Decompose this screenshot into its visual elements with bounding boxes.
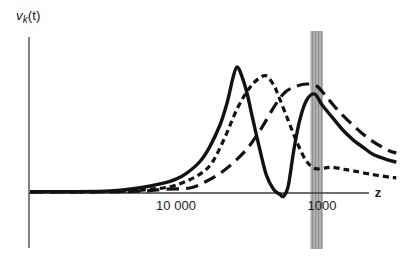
y-axis-label-of-t: (t) bbox=[28, 8, 41, 23]
y-axis-label: vk(t) bbox=[16, 8, 41, 25]
tick-label-10000: 10 000 bbox=[156, 198, 196, 213]
short-dashed-curve bbox=[30, 75, 396, 192]
x-axis-label: z bbox=[375, 185, 382, 200]
recombination-band bbox=[310, 31, 323, 249]
chart-svg: vk(t) z 10 000 1000 bbox=[0, 0, 402, 263]
tick-label-1000: 1000 bbox=[308, 198, 337, 213]
figure-velocity-perturbations-plot: vk(t) z 10 000 1000 bbox=[0, 0, 402, 263]
